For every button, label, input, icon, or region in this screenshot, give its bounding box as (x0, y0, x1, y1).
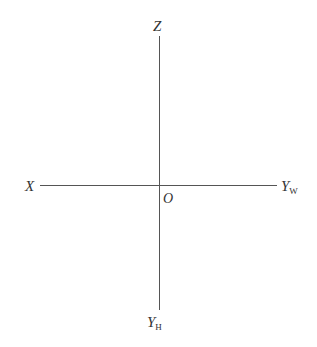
x-axis-label: X (24, 178, 35, 194)
origin-label: O (163, 191, 173, 206)
yh-axis-subscript: H (155, 322, 162, 332)
yw-axis-subscript: W (289, 186, 298, 196)
z-axis-label: Z (153, 18, 162, 34)
yh-axis-label: YH (147, 314, 162, 332)
projection-axes-diagram: Z X O YW YH (0, 0, 317, 347)
yw-axis-label: YW (281, 178, 298, 196)
